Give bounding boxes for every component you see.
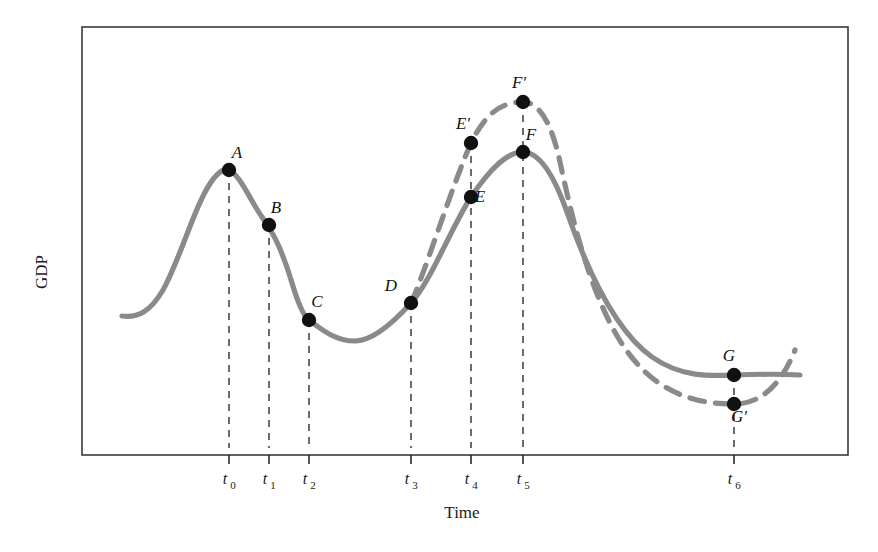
svg-text:t: t xyxy=(517,470,522,487)
data-point-b xyxy=(262,218,276,232)
axis-tick-label-t0: t0 xyxy=(223,470,236,491)
data-point-f xyxy=(516,145,530,159)
data-point-fprime xyxy=(516,95,530,109)
data-point-label-c: C xyxy=(311,292,323,311)
x-axis-title: Time xyxy=(444,503,479,522)
axis-tick-label-t2: t2 xyxy=(303,470,316,491)
drop-guide-lines xyxy=(229,102,734,448)
data-point-label-a: A xyxy=(231,143,243,162)
svg-text:0: 0 xyxy=(230,479,236,491)
data-point-c xyxy=(302,313,316,327)
data-point-label-d: D xyxy=(384,276,398,295)
solid-curve xyxy=(122,152,800,376)
axis-tick-marks xyxy=(229,455,734,464)
data-point-label-gprime: G′ xyxy=(731,407,747,426)
svg-text:4: 4 xyxy=(472,479,478,491)
svg-text:t: t xyxy=(728,470,733,487)
axis-tick-label-t4: t4 xyxy=(465,470,478,491)
data-point-label-g: G xyxy=(723,346,735,365)
y-axis-title: GDP xyxy=(32,255,51,289)
figure-canvas: ABCDEE′FF′GG′ t0t1t2t3t4t5t6 GDP Time xyxy=(0,0,878,552)
data-point-d xyxy=(404,296,418,310)
curve-group xyxy=(122,102,800,404)
plot-frame xyxy=(82,27,848,455)
svg-text:2: 2 xyxy=(310,479,316,491)
axis-tick-label-t1: t1 xyxy=(263,470,276,491)
business-cycle-chart: ABCDEE′FF′GG′ t0t1t2t3t4t5t6 GDP Time xyxy=(0,0,878,552)
svg-text:1: 1 xyxy=(270,479,276,491)
data-point-label-fprime: F′ xyxy=(511,73,526,92)
svg-text:t: t xyxy=(223,470,228,487)
axis-tick-label-group: t0t1t2t3t4t5t6 xyxy=(223,470,741,491)
data-point-label-eprime: E′ xyxy=(455,114,470,133)
data-point-a xyxy=(222,163,236,177)
axis-tick-label-t3: t3 xyxy=(405,470,418,491)
data-point-label-b: B xyxy=(271,198,282,217)
svg-text:6: 6 xyxy=(735,479,741,491)
axis-tick-label-t5: t5 xyxy=(517,470,530,491)
svg-text:t: t xyxy=(405,470,410,487)
data-point-g xyxy=(727,368,741,382)
svg-text:t: t xyxy=(303,470,308,487)
axis-tick-label-t6: t6 xyxy=(728,470,741,491)
svg-text:t: t xyxy=(263,470,268,487)
svg-text:3: 3 xyxy=(412,479,418,491)
data-point-eprime xyxy=(464,136,478,150)
svg-text:5: 5 xyxy=(524,479,530,491)
data-point-label-f: F xyxy=(525,125,537,144)
svg-text:t: t xyxy=(465,470,470,487)
data-point-label-e: E xyxy=(474,187,486,206)
